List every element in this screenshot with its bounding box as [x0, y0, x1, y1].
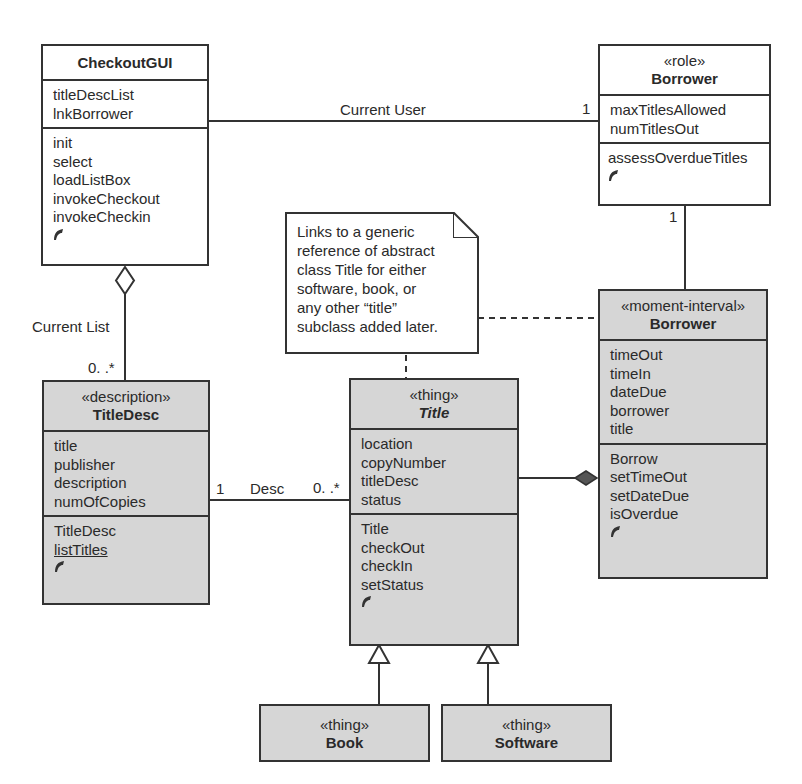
more-indicator-icon — [53, 227, 199, 243]
more-indicator-icon — [608, 168, 761, 184]
class-name: TitleDesc — [48, 406, 204, 424]
class-name: Borrower — [604, 315, 762, 333]
class-name: Borrower — [604, 70, 765, 88]
current-user-label: Current User — [340, 101, 426, 118]
attribute: dateDue — [610, 383, 758, 402]
class-header: «thing» Book — [261, 706, 428, 762]
attribute: numTitlesOut — [610, 120, 761, 139]
desc-multiplicity-titledesc: 1 — [216, 480, 224, 497]
composition-diamond-icon — [575, 471, 597, 485]
operation: Title — [361, 520, 509, 539]
attributes-compartment: title publisher description numOfCopies — [44, 430, 208, 515]
class-header: «description» TitleDesc — [44, 382, 208, 430]
note-folded-corner-icon — [453, 212, 479, 238]
operation: loadListBox — [53, 171, 199, 190]
attribute: location — [361, 435, 509, 454]
desc-multiplicity-title: 0. .* — [313, 479, 340, 496]
class-name-abstract: Title — [355, 404, 513, 422]
operation: isOverdue — [610, 505, 758, 524]
class-name: CheckoutGUI — [47, 54, 203, 72]
operations-compartment: assessOverdueTitles — [600, 142, 769, 188]
attribute: borrower — [610, 402, 758, 421]
stereotype: «thing» — [355, 386, 513, 404]
class-name: Software — [447, 734, 606, 752]
class-header: «moment-interval» Borrower — [600, 291, 766, 339]
class-header: «role» Borrower — [600, 46, 769, 94]
note-line: reference of abstract — [297, 241, 467, 260]
aggregation-diamond-icon — [116, 267, 134, 294]
current-list-multiplicity: 0. .* — [88, 359, 115, 376]
current-list-label: Current List — [32, 318, 110, 335]
operations-compartment: TitleDesc listTitles — [44, 515, 208, 579]
more-indicator-icon — [54, 559, 200, 575]
class-header: «thing» Title — [351, 380, 517, 428]
operations-compartment: init select loadListBox invokeCheckout i… — [43, 127, 207, 247]
operation: invokeCheckin — [53, 208, 199, 227]
operation: setStatus — [361, 576, 509, 595]
attribute: title — [54, 437, 200, 456]
attribute: titleDesc — [361, 472, 509, 491]
attribute: description — [54, 474, 200, 493]
operation: assessOverdueTitles — [608, 149, 761, 168]
class-name: Book — [265, 734, 424, 752]
stereotype: «moment-interval» — [604, 297, 762, 315]
operations-compartment: Title checkOut checkIn setStatus — [351, 513, 517, 614]
attributes-compartment: timeOut timeIn dateDue borrower title — [600, 339, 766, 443]
note-line: Links to a generic — [297, 222, 467, 241]
operation: TitleDesc — [54, 522, 200, 541]
operation: invokeCheckout — [53, 190, 199, 209]
role-multiplicity: 1 — [669, 208, 677, 225]
stereotype: «description» — [48, 388, 204, 406]
attribute: numOfCopies — [54, 493, 200, 512]
class-software[interactable]: «thing» Software — [441, 704, 612, 762]
attribute: timeOut — [610, 346, 758, 365]
attribute: timeIn — [610, 365, 758, 384]
attributes-compartment: location copyNumber titleDesc status — [351, 428, 517, 513]
operation: Borrow — [610, 450, 758, 469]
uml-diagram-canvas: Current User 1 1 Current List 0. .* 1 De… — [0, 0, 802, 784]
class-title[interactable]: «thing» Title location copyNumber titleD… — [349, 378, 519, 646]
more-indicator-icon — [361, 594, 509, 610]
operation: checkOut — [361, 539, 509, 558]
current-user-multiplicity: 1 — [582, 100, 590, 117]
attributes-compartment: maxTitlesAllowed numTitlesOut — [600, 94, 769, 142]
more-indicator-icon — [610, 524, 758, 540]
attribute: lnkBorrower — [53, 105, 199, 124]
attribute: title — [610, 420, 758, 439]
attributes-compartment: titleDescList lnkBorrower — [43, 79, 207, 127]
stereotype: «thing» — [447, 716, 606, 734]
note-line: any other “title” — [297, 298, 467, 317]
note-line: subclass added later. — [297, 317, 467, 336]
operation: select — [53, 153, 199, 172]
attribute: copyNumber — [361, 454, 509, 473]
class-book[interactable]: «thing» Book — [259, 704, 430, 762]
operation: checkIn — [361, 557, 509, 576]
generalization-arrow-software-icon — [478, 645, 498, 663]
note-line: software, book, or — [297, 279, 467, 298]
attribute: titleDescList — [53, 86, 199, 105]
stereotype: «role» — [604, 52, 765, 70]
generalization-arrow-book-icon — [369, 645, 389, 663]
class-header: «thing» Software — [443, 706, 610, 762]
operation: setTimeOut — [610, 468, 758, 487]
operations-compartment: Borrow setTimeOut setDateDue isOverdue — [600, 443, 766, 544]
attribute: status — [361, 491, 509, 510]
class-borrower-moment-interval[interactable]: «moment-interval» Borrower timeOut timeI… — [598, 289, 768, 579]
class-checkoutgui[interactable]: CheckoutGUI titleDescList lnkBorrower in… — [41, 44, 209, 266]
static-operation: listTitles — [54, 541, 200, 560]
desc-label: Desc — [250, 480, 284, 497]
class-header: CheckoutGUI — [43, 46, 207, 79]
class-borrower-role[interactable]: «role» Borrower maxTitlesAllowed numTitl… — [598, 44, 771, 206]
note-line: class Title for either — [297, 260, 467, 279]
class-titledesc[interactable]: «description» TitleDesc title publisher … — [42, 380, 210, 605]
operation: init — [53, 134, 199, 153]
attribute: publisher — [54, 456, 200, 475]
note-generic-title: Links to a generic reference of abstract… — [285, 212, 479, 354]
operation: setDateDue — [610, 487, 758, 506]
attribute: maxTitlesAllowed — [610, 101, 761, 120]
stereotype: «thing» — [265, 716, 424, 734]
